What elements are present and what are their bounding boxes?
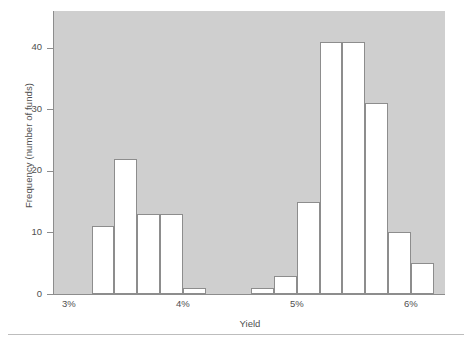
histogram-bar — [320, 42, 343, 294]
histogram-bar — [92, 226, 115, 294]
x-axis-title: Yield — [54, 318, 446, 329]
x-tick-label: 3% — [49, 298, 89, 309]
histogram-bar — [297, 202, 320, 294]
y-tick-mark — [47, 109, 54, 110]
histogram-bar — [160, 214, 183, 294]
histogram-bar — [365, 103, 388, 294]
y-tick-label: 0 — [6, 288, 42, 299]
y-tick-mark — [47, 171, 54, 172]
histogram-bar — [411, 263, 434, 294]
y-tick-label: 30 — [6, 103, 42, 114]
y-tick-mark — [47, 294, 54, 295]
y-axis-line — [53, 11, 54, 295]
x-tick-label: 6% — [391, 298, 431, 309]
y-tick-label: 20 — [6, 164, 42, 175]
histogram-bar — [251, 288, 274, 294]
y-tick-mark — [47, 232, 54, 233]
x-tick-label: 5% — [277, 298, 317, 309]
bottom-divider-rule — [8, 334, 464, 335]
y-axis-title: Frequency (number of funds) — [23, 46, 34, 246]
histogram-bar — [114, 159, 137, 294]
y-tick-label: 10 — [6, 226, 42, 237]
histogram-bar — [274, 276, 297, 294]
y-tick-label: 40 — [6, 41, 42, 52]
x-axis-line — [53, 294, 445, 295]
histogram-bar — [342, 42, 365, 294]
x-tick-label: 4% — [163, 298, 203, 309]
histogram-figure: Frequency (number of funds) Yield 010203… — [0, 0, 472, 342]
y-tick-mark — [47, 48, 54, 49]
histogram-bar — [388, 232, 411, 294]
histogram-bar — [137, 214, 160, 294]
histogram-bar — [183, 288, 206, 294]
